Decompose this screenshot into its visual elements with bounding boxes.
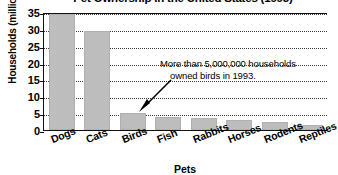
y-axis-tick-label: 35	[28, 8, 40, 19]
y-axis-tick-label: 25	[28, 41, 40, 52]
y-axis-tick-labels: 05101520253035	[18, 13, 40, 131]
chart-annotation: More than 5,000,000 households owned bir…	[160, 58, 328, 81]
bar	[84, 31, 110, 130]
y-axis-title: Households (millions)	[7, 0, 18, 96]
annotation-line-1: More than 5,000,000 households	[160, 58, 328, 70]
x-axis-tick-labels: DogsCatsBirdsFishRabbitsHorsesRodentsRep…	[43, 131, 327, 163]
x-axis-title: Pets	[43, 163, 327, 175]
y-axis-tick-label: 30	[28, 24, 40, 35]
y-axis-tick-label: 0	[34, 126, 40, 137]
y-axis-tick-label: 15	[28, 75, 40, 86]
bar	[49, 14, 75, 130]
annotation-arrow-icon	[137, 78, 173, 112]
y-axis-tick-label: 10	[28, 92, 40, 103]
y-axis-tick-label: 20	[28, 58, 40, 69]
chart-title: Pet Ownership in the United States (1993…	[36, 0, 330, 4]
annotation-line-2: owned birds in 1993.	[160, 70, 328, 82]
y-axis-tick-label: 5	[34, 109, 40, 120]
